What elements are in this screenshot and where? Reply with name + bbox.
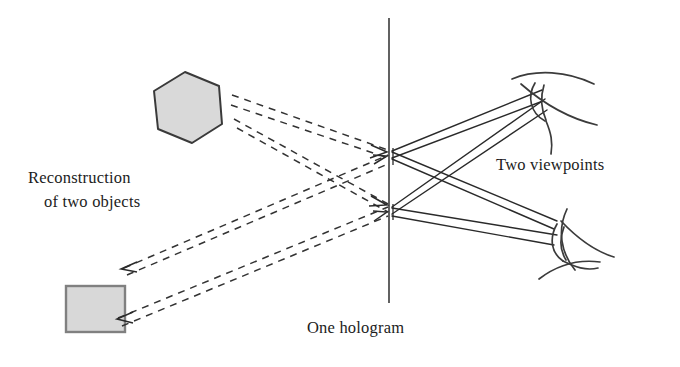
- dashed-ray-square-to-upper-node-b: [127, 164, 388, 275]
- solid-ray-upper-node-to-upper-eye-a: [392, 90, 542, 151]
- arrowhead-toward-square-upper: [121, 262, 137, 272]
- upper-eye-cornea-arc: [512, 73, 594, 84]
- label-two-viewpoints: Two viewpoints: [496, 155, 604, 175]
- dashed-ray-square-to-lower-node-b: [122, 216, 388, 326]
- reconstructed-hexagon: [154, 72, 222, 143]
- reconstructed-square: [66, 286, 125, 332]
- arrowhead-into-lower-node-from-hexagon: [369, 196, 387, 206]
- label-reconstruction-line1: Reconstruction: [28, 168, 131, 188]
- upper-eye-optic-axis: [546, 121, 552, 154]
- label-one-hologram: One hologram: [307, 318, 404, 338]
- lower-eye-lower-lid-arc: [539, 261, 600, 279]
- arrowhead-group: [117, 145, 387, 323]
- hologram-diagram: Reconstruction of two objects Two viewpo…: [0, 0, 680, 367]
- solid-ray-upper-node-to-upper-eye-b: [392, 101, 543, 158]
- dashed-ray-hexagon-to-lower-node-b: [237, 128, 388, 212]
- dashed-ray-square-to-lower-node-a: [118, 207, 388, 318]
- dashed-ray-hexagon-to-upper-node-b: [231, 105, 388, 158]
- solid-ray-lower-node-to-upper-eye-a: [392, 99, 545, 207]
- dashed-ray-hexagon-to-upper-node-a: [232, 95, 388, 150]
- dashed-ray-square-to-upper-node-a: [124, 155, 388, 268]
- label-reconstruction-line2: of two objects: [44, 192, 140, 212]
- lower-eye-upper-lid-arc: [561, 221, 614, 257]
